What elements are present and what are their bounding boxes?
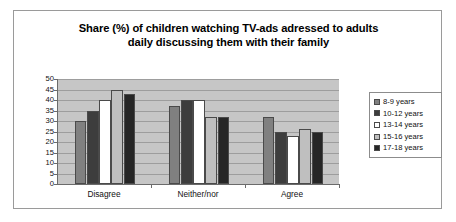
- bar: [169, 106, 181, 184]
- bar: [87, 111, 99, 185]
- y-tick-label: 0: [24, 180, 54, 188]
- category-label: Disagree: [57, 189, 151, 199]
- bar: [75, 121, 87, 184]
- category-label: Agree: [245, 189, 339, 199]
- legend-label: 10-12 years: [383, 110, 423, 118]
- legend-swatch-icon: [374, 110, 380, 116]
- y-axis-tick-labels: 50454035302520151050: [22, 11, 54, 222]
- y-tick-label: 15: [24, 149, 54, 157]
- legend-label: 13-14 years: [383, 121, 423, 129]
- bar: [205, 117, 217, 184]
- y-tick-label: 45: [24, 86, 54, 94]
- y-tick-label: 30: [24, 117, 54, 125]
- y-tick-mark: [54, 121, 57, 122]
- legend-item: 10-12 years: [374, 108, 438, 120]
- bar: [111, 90, 123, 185]
- legend: 8-9 years10-12 years13-14 years15-16 yea…: [369, 92, 442, 158]
- legend-item: 17-18 years: [374, 142, 438, 154]
- y-tick-mark: [54, 132, 57, 133]
- chart-title-line-1: Share (%) of children watching TV-ads ad…: [14, 21, 443, 35]
- bar: [312, 132, 324, 185]
- bar: [218, 117, 230, 184]
- bar: [299, 129, 311, 184]
- chart-title: Share (%) of children watching TV-ads ad…: [14, 21, 443, 49]
- y-tick-mark: [54, 142, 57, 143]
- y-tick-mark: [54, 111, 57, 112]
- chart-title-line-2: daily discussing them with their family: [14, 35, 443, 49]
- y-tick-mark: [54, 100, 57, 101]
- bar-group: [169, 79, 229, 184]
- y-tick-mark: [54, 174, 57, 175]
- bar: [275, 132, 287, 185]
- y-tick-mark: [54, 163, 57, 164]
- chart-screenshot: Share (%) of children watching TV-ads ad…: [0, 0, 456, 222]
- legend-swatch-icon: [374, 145, 380, 151]
- bar: [263, 117, 275, 184]
- legend-swatch-icon: [374, 99, 380, 105]
- bar-group: [263, 79, 323, 184]
- legend-item: 15-16 years: [374, 131, 438, 143]
- category-tick: [151, 184, 152, 188]
- chart-frame: Share (%) of children watching TV-ads ad…: [13, 10, 442, 209]
- bar: [193, 100, 205, 184]
- y-axis-line: [57, 79, 58, 185]
- y-tick-label: 25: [24, 128, 54, 136]
- y-tick-mark: [54, 79, 57, 80]
- legend-label: 15-16 years: [383, 133, 423, 141]
- y-tick-label: 5: [24, 170, 54, 178]
- y-tick-label: 20: [24, 138, 54, 146]
- legend-swatch-icon: [374, 134, 380, 140]
- legend-item: 13-14 years: [374, 119, 438, 131]
- legend-label: 17-18 years: [383, 144, 423, 152]
- y-tick-label: 35: [24, 107, 54, 115]
- plot-area: [57, 79, 339, 184]
- y-tick-label: 10: [24, 159, 54, 167]
- bar: [287, 136, 299, 184]
- y-tick-mark: [54, 184, 57, 185]
- bar: [99, 100, 111, 184]
- bar: [181, 100, 193, 184]
- legend-label: 8-9 years: [383, 98, 415, 106]
- y-tick-label: 40: [24, 96, 54, 104]
- x-axis-line: [57, 184, 340, 185]
- category-label: Neither/nor: [151, 189, 245, 199]
- y-tick-label: 50: [24, 75, 54, 83]
- category-tick: [339, 184, 340, 188]
- bar: [124, 94, 136, 184]
- legend-item: 8-9 years: [374, 96, 438, 108]
- y-tick-mark: [54, 90, 57, 91]
- category-tick: [245, 184, 246, 188]
- legend-swatch-icon: [374, 122, 380, 128]
- bar-group: [75, 79, 135, 184]
- y-tick-mark: [54, 153, 57, 154]
